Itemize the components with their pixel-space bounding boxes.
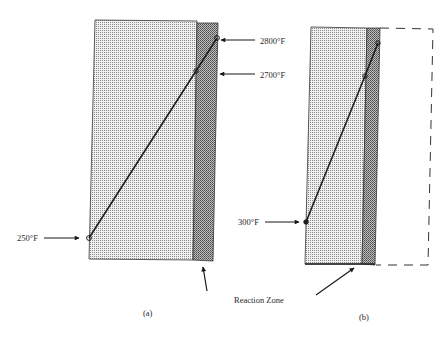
label-2800: 2800°F xyxy=(260,36,285,46)
label-300: 300°F xyxy=(238,217,259,227)
panel-b-material-block xyxy=(305,27,367,264)
arrow-reaction-zone-a-icon xyxy=(203,267,207,291)
caption-a: (a) xyxy=(143,308,153,318)
panel-b-dashed-outline xyxy=(376,28,433,265)
label-2700: 2700°F xyxy=(260,70,285,80)
diagram-canvas: 2800°F 2700°F 250°F (a) 300°F Reaction Z… xyxy=(0,0,445,338)
panel-a: 2800°F 2700°F 250°F (a) xyxy=(17,20,285,318)
panel-a-reaction-zone-block xyxy=(193,23,218,261)
panel-b-point-300 xyxy=(304,220,308,224)
label-250: 250°F xyxy=(17,233,38,243)
caption-b: (b) xyxy=(359,312,369,322)
panel-a-material-block xyxy=(89,20,197,260)
arrow-reaction-zone-b-icon xyxy=(316,268,354,295)
reaction-zone-label: Reaction Zone xyxy=(234,295,284,305)
